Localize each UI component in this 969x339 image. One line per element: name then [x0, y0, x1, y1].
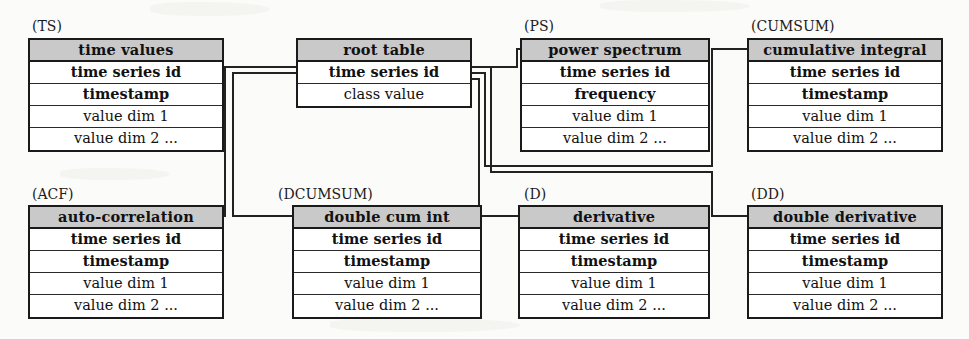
caption-acf: (ACF) — [32, 186, 73, 202]
field-row: value dim 2 ... — [749, 295, 941, 317]
field-row: value dim 1 — [520, 273, 708, 295]
caption-ps: (PS) — [524, 18, 554, 34]
entity-title-dd: double derivative — [749, 207, 941, 229]
field-row: timestamp — [30, 251, 222, 273]
edge-root-acf — [224, 66, 226, 217]
field-row: value dim 2 ... — [749, 128, 941, 150]
field-row: timestamp — [749, 251, 941, 273]
field-row: time series id — [30, 62, 222, 84]
field-row: value dim 2 ... — [522, 128, 708, 150]
field-row: timestamp — [30, 84, 222, 106]
field-row: value dim 1 — [749, 106, 941, 128]
entity-title-d: derivative — [520, 207, 708, 229]
scan-artifact — [330, 318, 520, 332]
entity-title-ps: power spectrum — [522, 40, 708, 62]
edge-root-ps — [516, 48, 518, 68]
scan-artifact — [600, 0, 750, 12]
field-row: value dim 1 — [30, 273, 222, 295]
field-row: time series id — [749, 229, 941, 251]
field-row: time series id — [522, 62, 708, 84]
field-row: value dim 1 — [30, 106, 222, 128]
caption-cumsum: (CUMSUM) — [751, 18, 835, 34]
entity-table-d[interactable]: derivative time series id timestamp valu… — [518, 205, 710, 319]
field-row: value dim 2 ... — [30, 128, 222, 150]
edge-root-dd — [711, 171, 713, 217]
edge-root-ts — [232, 72, 296, 74]
edge-root-ps — [470, 66, 518, 68]
field-row: value dim 1 — [749, 273, 941, 295]
caption-d: (D) — [524, 186, 546, 202]
edge-root-d — [478, 78, 480, 217]
field-row: timestamp — [294, 251, 480, 273]
edge-root-dd — [711, 215, 751, 217]
edge-root-cumsum — [470, 72, 484, 74]
field-row: time series id — [30, 229, 222, 251]
edge-root-cumsum — [484, 165, 713, 167]
caption-dcumsum: (DCUMSUM) — [278, 186, 373, 202]
entity-title-acf: auto-correlation — [30, 207, 222, 229]
edge-root-ts — [224, 66, 296, 68]
field-row: time series id — [294, 229, 480, 251]
field-row: value dim 1 — [294, 273, 480, 295]
scan-artifact — [150, 2, 270, 16]
entity-table-ps[interactable]: power spectrum time series id frequency … — [520, 38, 710, 152]
entity-table-dd[interactable]: double derivative time series id timesta… — [747, 205, 943, 319]
scan-artifact — [60, 168, 170, 180]
edge-root-d — [478, 215, 518, 217]
field-row: frequency — [522, 84, 708, 106]
edge-root-dcumsum — [232, 215, 292, 217]
entity-table-ts[interactable]: time values time series id timestamp val… — [28, 38, 224, 152]
entity-table-cumsum[interactable]: cumulative integral time series id times… — [747, 38, 943, 152]
entity-table-root[interactable]: root table time series id class value — [296, 38, 472, 108]
edge-root-cumsum — [711, 48, 713, 167]
field-row: timestamp — [520, 251, 708, 273]
caption-dd: (DD) — [751, 186, 784, 202]
field-row: value dim 2 ... — [520, 295, 708, 317]
field-row: value dim 2 ... — [294, 295, 480, 317]
field-row: timestamp — [749, 84, 941, 106]
edge-root-dd — [490, 66, 492, 171]
edge-root-cumsum — [484, 72, 486, 165]
edge-root-dcumsum — [232, 72, 234, 215]
caption-ts: (TS) — [32, 18, 62, 34]
edge-root-cumsum — [711, 48, 751, 50]
field-row: time series id — [749, 62, 941, 84]
entity-title-root: root table — [298, 40, 470, 62]
field-row: value dim 2 ... — [30, 295, 222, 317]
edge-root-dd — [490, 171, 713, 173]
entity-title-dcumsum: double cum int — [294, 207, 480, 229]
field-row: time series id — [520, 229, 708, 251]
schema-diagram-canvas: (TS) (PS) (CUMSUM) (ACF) (DCUMSUM) (D) (… — [0, 0, 969, 339]
field-row: class value — [298, 84, 470, 106]
entity-table-dcumsum[interactable]: double cum int time series id timestamp … — [292, 205, 482, 319]
field-row: time series id — [298, 62, 470, 84]
field-row: value dim 1 — [522, 106, 708, 128]
entity-title-ts: time values — [30, 40, 222, 62]
entity-title-cumsum: cumulative integral — [749, 40, 941, 62]
entity-table-acf[interactable]: auto-correlation time series id timestam… — [28, 205, 224, 319]
